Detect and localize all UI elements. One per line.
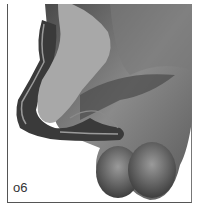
- lobe-right: [128, 142, 176, 198]
- anatomical-illustration: [0, 0, 201, 211]
- figure-label: o6: [13, 180, 27, 195]
